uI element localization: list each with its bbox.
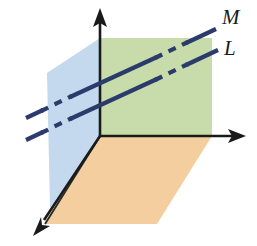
coordinate-system-diagram: M L	[0, 0, 257, 246]
line-m-segment-solid-1	[26, 110, 43, 118]
back-plane-green	[100, 38, 212, 136]
line-l-label: L	[223, 36, 236, 60]
figure-container: M L	[0, 0, 257, 246]
line-l-segment-solid-1	[26, 132, 43, 140]
line-m-label: M	[221, 5, 241, 29]
